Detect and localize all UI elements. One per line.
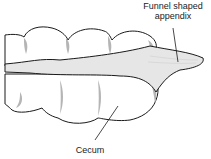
lower-haustra [5, 74, 158, 123]
cecum-illustration [0, 0, 211, 159]
appendix-label-line2: appendix [135, 11, 211, 21]
appendix-label: Funnel shaped appendix [135, 1, 211, 21]
appendix-label-line1: Funnel shaped [135, 1, 211, 11]
cecum-label: Cecum [70, 145, 110, 155]
